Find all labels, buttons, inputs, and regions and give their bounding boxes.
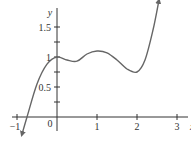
y-axis-label: y xyxy=(47,7,53,18)
tick-labels: −112300.511.5yx xyxy=(10,7,191,132)
x-tick-label: 2 xyxy=(135,121,140,132)
curve xyxy=(22,0,159,135)
x-axis-label: x xyxy=(189,121,191,132)
y-tick-label: 0.5 xyxy=(39,82,52,93)
y-tick-label: 1 xyxy=(46,52,51,63)
function-curve xyxy=(22,0,159,135)
function-graph: −112300.511.5yx xyxy=(0,0,191,148)
x-tick-label: 1 xyxy=(95,121,100,132)
x-tick-label: −1 xyxy=(10,121,21,132)
x-tick-label: 3 xyxy=(175,121,180,132)
origin-label: 0 xyxy=(48,118,53,129)
y-tick-label: 1.5 xyxy=(39,22,52,33)
